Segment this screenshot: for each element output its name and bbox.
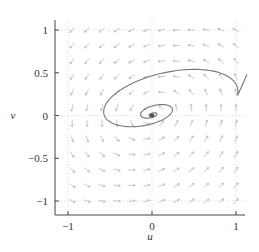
y-tick-label: 1 [43, 24, 49, 36]
y-axis-ticks: −1−0.500.51 [28, 24, 59, 207]
y-axis-label: v [11, 109, 16, 121]
trajectory-curve [104, 69, 247, 126]
y-tick-label: 0.5 [34, 67, 48, 79]
y-tick-label: −1 [36, 195, 48, 207]
x-axis-ticks: −101 [62, 211, 239, 232]
fixed-point-marker [150, 113, 154, 117]
x-axis-label: u [147, 230, 153, 242]
y-tick-label: −0.5 [28, 152, 48, 164]
x-tick-label: −1 [62, 220, 74, 232]
phase-portrait-chart: −101 −1−0.500.51 u v [0, 0, 259, 252]
x-tick-label: 1 [233, 220, 239, 232]
y-tick-label: 0 [43, 110, 49, 122]
